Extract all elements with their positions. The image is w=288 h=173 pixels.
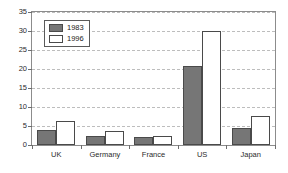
x-axis-label-japan: Japan <box>240 151 260 159</box>
bar-germany-1983 <box>86 136 105 145</box>
bar-group-japan <box>226 12 275 145</box>
legend-label-1983: 1983 <box>67 24 84 32</box>
bar-uk-1996 <box>56 121 75 145</box>
x-axis-label-france: France <box>142 151 165 159</box>
y-tick-label-20: 20 <box>0 65 27 73</box>
chart-legend: 1983 1996 <box>44 20 90 47</box>
bar-japan-1996 <box>251 116 270 145</box>
y-tick-label-0: 0 <box>0 141 27 149</box>
legend-item-1996: 1996 <box>49 35 84 43</box>
x-tick-mark-2 <box>129 145 130 149</box>
legend-item-1983: 1983 <box>49 24 84 32</box>
bar-us-1983 <box>183 66 202 145</box>
y-tick-label-5: 5 <box>0 122 27 130</box>
legend-swatch-1996 <box>49 35 63 43</box>
bar-group-us <box>178 12 227 145</box>
bar-us-1996 <box>202 31 221 145</box>
x-tick-mark-5 <box>275 145 276 149</box>
y-tick-label-25: 25 <box>0 46 27 54</box>
bar-japan-1983 <box>232 128 251 145</box>
x-tick-mark-4 <box>226 145 227 149</box>
y-tick-label-15: 15 <box>0 84 27 92</box>
legend-label-1996: 1996 <box>67 35 84 43</box>
legend-swatch-1983 <box>49 24 63 32</box>
x-tick-mark-0 <box>32 145 33 149</box>
y-tick-label-35: 35 <box>0 8 27 16</box>
x-tick-mark-1 <box>81 145 82 149</box>
bar-chart-figure: 1983 1996 05101520253035 UKGermanyFrance… <box>0 0 288 173</box>
x-axis-label-us: US <box>197 151 207 159</box>
bar-france-1996 <box>153 136 172 146</box>
x-axis-label-germany: Germany <box>89 151 120 159</box>
bar-uk-1983 <box>37 130 56 145</box>
x-axis-label-uk: UK <box>51 151 61 159</box>
gridline-0 <box>32 145 275 146</box>
plot-area: 1983 1996 <box>31 11 276 146</box>
bar-germany-1996 <box>105 131 124 145</box>
x-tick-mark-3 <box>178 145 179 149</box>
y-tick-label-10: 10 <box>0 103 27 111</box>
bar-group-france <box>129 12 178 145</box>
bar-france-1983 <box>134 137 153 145</box>
y-tick-label-30: 30 <box>0 27 27 35</box>
